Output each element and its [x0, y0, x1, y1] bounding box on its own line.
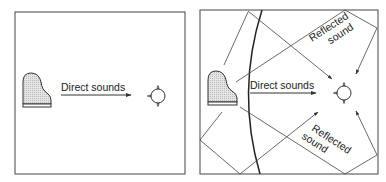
- reflected-sound-label-top: Reflected sound: [307, 9, 357, 53]
- direct-sounds-label: Direct sounds: [250, 79, 314, 91]
- left-panel: Direct sounds: [15, 12, 185, 174]
- diagram: Direct sounds: [0, 0, 386, 182]
- listener-icon: [148, 86, 166, 107]
- right-panel: Direct sounds Reflected sound Reflected …: [200, 9, 378, 174]
- piano-icon: [23, 73, 51, 107]
- piano-icon: [208, 71, 237, 105]
- direct-sounds-label: Direct sounds: [61, 81, 125, 93]
- wavefront-arc: [248, 10, 262, 174]
- reflected-sound-label-bottom: Reflected sound: [300, 119, 354, 166]
- listener-icon: [334, 83, 352, 104]
